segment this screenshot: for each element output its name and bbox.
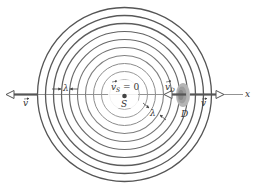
source-label: S bbox=[121, 99, 127, 109]
detector-velocity-label: vD bbox=[165, 81, 175, 93]
x-axis-label: x bbox=[245, 89, 250, 99]
wave-velocity-left-arrow bbox=[6, 91, 38, 99]
wavelength-diagonal-label: λ bbox=[149, 108, 156, 118]
doppler-diagram: λ λ vS = 0 S vD D v v x bbox=[0, 0, 253, 193]
wave-velocity-left-label: v bbox=[23, 98, 29, 108]
wave-velocity-right-label: v bbox=[201, 98, 207, 108]
detector-label: D bbox=[180, 109, 188, 119]
svg-text:vD: vD bbox=[165, 82, 175, 93]
svg-text:v: v bbox=[201, 98, 206, 108]
svg-text:v: v bbox=[23, 98, 28, 108]
svg-text:vS = 0: vS = 0 bbox=[111, 82, 139, 93]
source-dot bbox=[122, 94, 127, 99]
wavelength-horizontal-label: λ bbox=[62, 83, 69, 93]
source-velocity-label: vS = 0 bbox=[111, 81, 139, 93]
